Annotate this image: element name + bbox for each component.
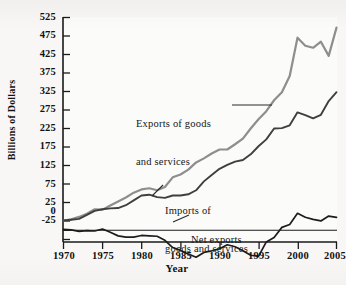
x-tick-label-2000: 2000 [278, 250, 318, 261]
y-tick-label-75: 75 [26, 178, 56, 189]
x-tick-label-2005: 2005 [315, 250, 346, 261]
x-tick-label-1975: 1975 [83, 250, 123, 261]
x-tick-label-1970: 1970 [44, 250, 84, 261]
chart-figure: Billions of Dollars Year 525 475 425 375… [0, 0, 346, 285]
y-tick-label-neg25: -25 [26, 214, 56, 225]
y-tick-label-125: 125 [26, 159, 56, 170]
x-tick-label-1980: 1980 [122, 250, 162, 261]
y-axis-title: Billions of Dollars [6, 40, 17, 200]
y-tick-label-375: 375 [26, 66, 56, 77]
y-tick-label-525: 525 [26, 11, 56, 22]
exports-annotation: Exports of goods and services [136, 93, 211, 193]
y-tick-label-475: 475 [26, 29, 56, 40]
net-exports-annotation-line1: Net exports [191, 234, 242, 247]
y-tick-label-425: 425 [26, 48, 56, 59]
y-tick-label-325: 325 [26, 85, 56, 96]
y-tick-label-175: 175 [26, 140, 56, 151]
exports-annotation-line2: and services [136, 156, 211, 169]
y-tick-label-275: 275 [26, 103, 56, 114]
exports-annotation-line1: Exports of goods [136, 118, 211, 131]
net-exports-annotation: Net exports [191, 209, 242, 272]
y-tick-label-225: 225 [26, 122, 56, 133]
